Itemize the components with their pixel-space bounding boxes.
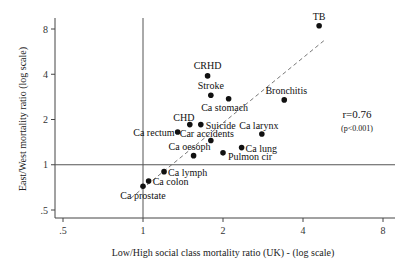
point-label: TB: [313, 11, 326, 22]
point-marker: [187, 122, 193, 128]
point-label: Bronchitis: [265, 85, 307, 96]
data-point: CRHD: [194, 60, 222, 79]
point-marker: [140, 183, 146, 189]
point-marker: [316, 23, 322, 29]
data-points: TBCRHDStrokeCa stomachBronchitisCHDSuici…: [120, 11, 325, 201]
point-label: CHD: [173, 112, 194, 123]
correlation-label: r=0.76: [342, 108, 372, 120]
x-tick-label: .5: [59, 225, 67, 236]
x-tick-label: 4: [301, 225, 306, 236]
y-tick-label: .5: [41, 205, 49, 216]
data-point: Ca colon: [146, 176, 189, 187]
point-marker: [259, 131, 265, 137]
y-tick-label: 8: [43, 24, 48, 35]
scatter-chart: .51248.51248 TBCRHDStrokeCa stomachBronc…: [0, 0, 415, 261]
point-marker: [205, 73, 211, 79]
point-marker: [226, 96, 232, 102]
data-point: Ca rectum: [133, 127, 180, 138]
p-value-label: (p<0.001): [341, 124, 373, 133]
x-tick-label: 1: [141, 225, 146, 236]
point-label: Ca rectum: [133, 127, 175, 138]
data-point: Pulmon cir: [220, 150, 273, 162]
point-label: Ca colon: [153, 176, 189, 187]
point-label: Ca prostate: [120, 190, 166, 201]
point-marker: [281, 97, 287, 103]
data-point: Stroke: [198, 80, 225, 98]
data-point: CHD: [173, 112, 194, 128]
data-point: Ca oesoph: [169, 141, 211, 159]
point-label: Ca oesoph: [169, 141, 211, 152]
point-label: Car accidents: [180, 128, 234, 139]
x-axis-title: Low/High social class mortality ratio (U…: [112, 247, 335, 259]
x-tick-label: 2: [221, 225, 226, 236]
y-tick-label: 1: [43, 159, 48, 170]
point-label: Ca stomach: [201, 102, 248, 113]
point-marker: [161, 169, 167, 175]
data-point: TB: [313, 11, 326, 29]
point-marker: [208, 92, 214, 98]
point-label: Ca larynx: [239, 120, 278, 131]
x-tick-label: 8: [381, 225, 386, 236]
data-point: Ca larynx: [239, 120, 278, 137]
point-marker: [146, 178, 152, 184]
y-tick-label: 4: [43, 69, 48, 80]
point-marker: [239, 145, 245, 151]
point-marker: [220, 150, 226, 156]
data-point: Bronchitis: [265, 85, 307, 103]
point-label: CRHD: [194, 60, 222, 71]
y-axis-title: East/West mortality ratio (log scale): [17, 47, 29, 191]
data-point: Ca stomach: [201, 96, 248, 113]
point-marker: [191, 153, 197, 159]
y-tick-label: 2: [43, 114, 48, 125]
point-marker: [198, 122, 204, 128]
point-label: Stroke: [198, 80, 225, 91]
point-label: Pulmon cir: [228, 151, 273, 162]
